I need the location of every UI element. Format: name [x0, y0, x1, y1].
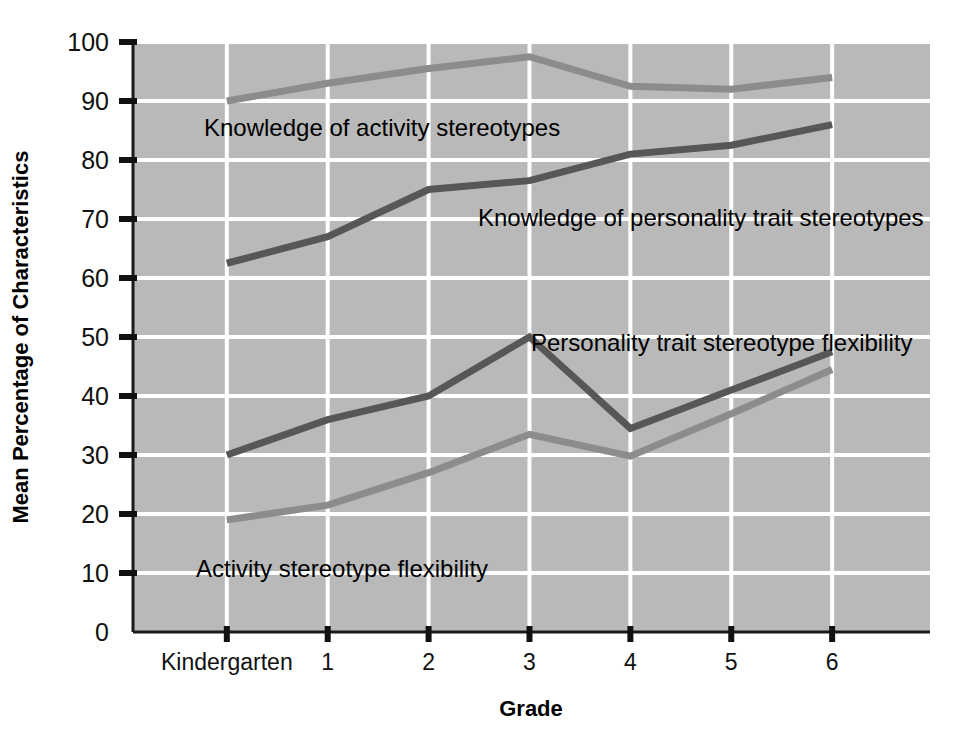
y-axis-tick-label: 40: [81, 382, 109, 410]
y-axis-tick-label: 60: [81, 264, 109, 292]
line-chart: 0102030405060708090100 Kindergarten12345…: [0, 0, 968, 736]
x-axis-title: Grade: [499, 696, 563, 721]
y-axis-tick-label: 20: [81, 500, 109, 528]
y-axis-tick-label: 70: [81, 205, 109, 233]
y-axis-tick-label: 100: [67, 28, 109, 56]
y-axis-tick-label: 90: [81, 87, 109, 115]
x-axis-tick-label: 5: [725, 649, 738, 675]
x-axis-tick-labels: Kindergarten123456: [161, 649, 839, 675]
y-axis-tick-label: 80: [81, 146, 109, 174]
series-annotation-0: Knowledge of activity stereotypes: [204, 114, 560, 141]
y-axis-tick-label: 0: [95, 618, 109, 646]
y-axis-tick-label: 50: [81, 323, 109, 351]
y-axis-title: Mean Percentage of Characteristics: [8, 151, 33, 524]
series-annotation-2: Personality trait stereotype flexibility: [531, 329, 913, 356]
y-axis-tick-label: 10: [81, 559, 109, 587]
y-axis-tick-labels: 0102030405060708090100: [67, 28, 109, 646]
x-axis-tick-label: 3: [523, 649, 536, 675]
x-axis-tick-label: Kindergarten: [161, 649, 293, 675]
series-annotation-3: Activity stereotype flexibility: [196, 555, 488, 582]
x-axis-tick-label: 2: [422, 649, 435, 675]
y-axis-tick-label: 30: [81, 441, 109, 469]
figure-container: 0102030405060708090100 Kindergarten12345…: [0, 0, 968, 736]
x-axis-tick-label: 4: [624, 649, 637, 675]
x-axis-tick-label: 1: [321, 649, 334, 675]
x-axis-tick-label: 6: [826, 649, 839, 675]
series-annotation-1: Knowledge of personality trait stereotyp…: [478, 204, 924, 231]
